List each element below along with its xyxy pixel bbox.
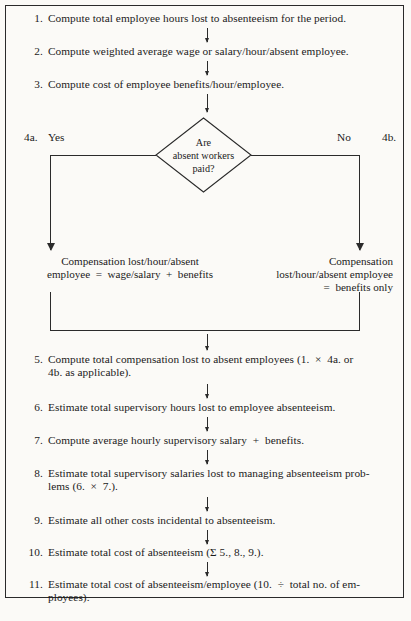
step-5-text: Compute total compensation lost to absen… bbox=[48, 353, 353, 380]
step-9-number: 9. bbox=[20, 514, 43, 527]
branch-right-text: Compensation lost/hour/absent employee =… bbox=[243, 255, 393, 295]
connector-arrow-5-to-6 bbox=[207, 384, 208, 398]
decision-diamond-text: Are absent workers paid? bbox=[155, 117, 252, 193]
step-2-text: Compute weighted average wage or salary/… bbox=[48, 45, 349, 58]
branch-line-right-vertical-lower bbox=[359, 292, 360, 331]
flowchart-page: 1. Compute total employee hours lost to … bbox=[0, 0, 411, 621]
step-11-text: Estimate total cost of absenteeism/emplo… bbox=[48, 578, 360, 605]
branch-right-key: 4b. bbox=[382, 131, 396, 144]
connector-arrow-9-to-10 bbox=[207, 530, 208, 544]
branch-left-key: 4a. bbox=[24, 131, 38, 144]
step-8-text: Estimate total supervisory salaries lost… bbox=[48, 467, 370, 494]
step-1-number: 1. bbox=[20, 12, 43, 25]
branch-rejoin-line bbox=[50, 330, 360, 331]
branch-left-text: Compensation lost/hour/absent employee =… bbox=[18, 255, 242, 281]
branch-line-right-vertical-upper bbox=[359, 155, 360, 233]
step-7-text: Compute average hourly supervisory salar… bbox=[48, 434, 304, 447]
step-5-number: 5. bbox=[20, 353, 43, 366]
branch-line-right-horizontal bbox=[251, 155, 360, 156]
connector-arrow-decision-to-5 bbox=[207, 334, 208, 350]
step-1-text: Compute total employee hours lost to abs… bbox=[48, 12, 346, 25]
decision-line-3: paid? bbox=[192, 162, 214, 175]
step-10-text: Estimate total cost of absenteeism (Σ 5.… bbox=[48, 546, 264, 559]
decision-line-2: absent workers bbox=[173, 149, 234, 162]
step-2-number: 2. bbox=[20, 45, 43, 58]
branch-arrow-right bbox=[359, 232, 360, 250]
step-6-number: 6. bbox=[20, 401, 43, 414]
connector-arrow-6-to-7 bbox=[207, 417, 208, 431]
branch-left-answer: Yes bbox=[48, 131, 64, 144]
branch-arrow-left bbox=[50, 232, 51, 250]
connector-arrow-10-to-11 bbox=[207, 562, 208, 576]
connector-arrow-7-to-8 bbox=[207, 450, 208, 464]
step-10-number: 10. bbox=[20, 546, 43, 559]
step-11-number: 11. bbox=[20, 578, 43, 591]
decision-line-1: Are bbox=[196, 136, 211, 149]
step-7-number: 7. bbox=[20, 434, 43, 447]
step-8-number: 8. bbox=[20, 467, 43, 480]
connector-arrow-8-to-9 bbox=[207, 497, 208, 511]
step-6-text: Estimate total supervisory hours lost to… bbox=[48, 401, 335, 414]
decision-diamond: Are absent workers paid? bbox=[155, 117, 252, 193]
connector-arrow-3-to-decision bbox=[207, 94, 208, 112]
branch-line-left-vertical-lower bbox=[50, 292, 51, 331]
step-9-text: Estimate all other costs incidental to a… bbox=[48, 514, 275, 527]
step-3-number: 3. bbox=[20, 78, 43, 91]
branch-line-left-horizontal bbox=[50, 155, 156, 156]
connector-arrow-1-to-2 bbox=[207, 28, 208, 42]
step-3-text: Compute cost of employee benefits/hour/e… bbox=[48, 78, 284, 91]
connector-arrow-2-to-3 bbox=[207, 61, 208, 75]
branch-line-left-vertical-upper bbox=[50, 155, 51, 233]
branch-right-answer: No bbox=[337, 131, 351, 144]
